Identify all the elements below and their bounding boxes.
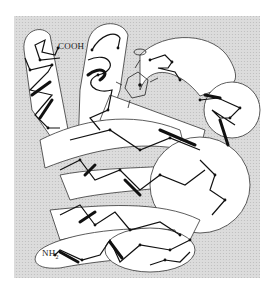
n-terminus-label: NH2	[42, 248, 59, 260]
n-terminus-text: NH	[42, 248, 55, 258]
n-terminus-subscript: 2	[55, 254, 58, 260]
c-terminus-label: COOH	[58, 41, 84, 51]
protein-diagram	[0, 0, 273, 291]
